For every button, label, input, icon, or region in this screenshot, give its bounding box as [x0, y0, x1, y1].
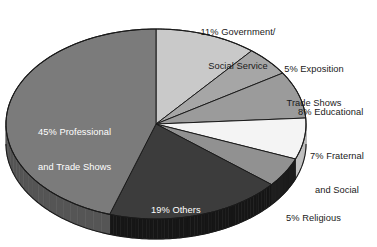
slice-label-educational-line1: 8% Educational [298, 107, 374, 118]
slice-label-religious-line1: 5% Religious [286, 213, 372, 224]
slice-label-fraternal-line1: 7% Fraternal [300, 151, 374, 162]
slice-label-government-line1: 11% Government/ [178, 27, 298, 38]
slice-label-others-line1: 19% Others [151, 205, 231, 217]
slice-label-professional-line2: and Trade Shows [38, 162, 158, 174]
pie-chart-figure: 11% Government/ Social Service 5% Exposi… [0, 0, 377, 247]
slice-label-religious: 5% Religious [286, 190, 372, 247]
slice-label-exposition-line1: 5% Exposition [258, 64, 370, 75]
slice-label-others: 19% Others [151, 182, 231, 240]
slice-label-professional-line1: 45% Professional [38, 127, 158, 139]
slice-label-professional: 45% Professional and Trade Shows [38, 104, 158, 197]
